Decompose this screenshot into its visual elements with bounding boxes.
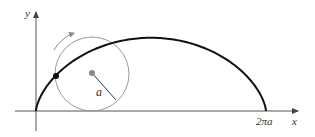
tracing-point [53,73,59,79]
endpoint-label: 2πa [256,115,273,127]
radius-label: a [96,85,102,99]
x-axis-label: x [291,115,297,127]
rotation-arrow [54,33,74,50]
cycloid-diagram: y x a 2πa [0,0,315,137]
circle-center [89,70,95,76]
cycloid-arch [36,38,266,111]
y-axis-label: y [24,7,30,19]
